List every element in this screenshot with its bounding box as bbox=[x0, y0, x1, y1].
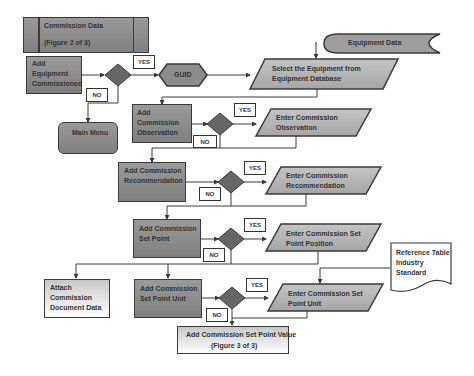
enter-set-point-unit-label: Enter Commission Set Point Unit bbox=[288, 289, 363, 309]
no-tag-2: NO bbox=[193, 135, 217, 148]
yes-tag-4: YES bbox=[244, 218, 266, 232]
equipment-data-label: Equipment Data bbox=[348, 38, 401, 48]
attach-document-label: Attach Commission Document Data bbox=[50, 283, 101, 313]
decision-diamond-5 bbox=[219, 287, 245, 309]
select-equipment-label: Select the Equipment from Equipment Data… bbox=[272, 64, 361, 84]
flowchart-canvas: Commission Data (Figure 2 of 3) Add Equi… bbox=[0, 0, 474, 376]
no-tag-5: NO bbox=[206, 308, 228, 322]
decision-diamond-4 bbox=[218, 228, 244, 250]
yes-tag-1: YES bbox=[133, 55, 155, 69]
header-subtitle: (Figure 2 of 3) bbox=[44, 38, 90, 48]
decision-diamond-1 bbox=[105, 64, 131, 86]
main-menu-button[interactable] bbox=[58, 122, 118, 154]
no-tag-4: NO bbox=[203, 248, 225, 262]
footer-title: Add Commission Set Point Value bbox=[186, 330, 296, 340]
yes-tag-3: YES bbox=[244, 161, 266, 175]
guid-label: GUID bbox=[174, 70, 192, 80]
add-set-point-label: Add Commission Set Point bbox=[139, 224, 197, 244]
reference-table-label: Reference Table Industry Standard bbox=[396, 248, 450, 278]
main-menu-label: Main Menu bbox=[72, 128, 108, 138]
add-equipment-label: Add Equipment Commissioned bbox=[32, 59, 82, 89]
add-observation-label: Add Commission Observation bbox=[137, 108, 179, 138]
decision-diamond-3 bbox=[218, 171, 244, 193]
add-recommendation-label: Add Commission Recommendation bbox=[124, 166, 183, 186]
no-tag-1: NO bbox=[86, 88, 108, 102]
no-tag-3: NO bbox=[199, 187, 221, 201]
header-title: Commission Data bbox=[44, 21, 103, 31]
enter-observation-label: Enter Commission Observation bbox=[276, 113, 338, 133]
yes-tag-2: YES bbox=[234, 103, 256, 117]
decision-diamond-2 bbox=[207, 113, 233, 135]
enter-recommendation-label: Enter Commission Recommendation bbox=[286, 171, 348, 191]
footer-subtitle: (Figure 3 of 3) bbox=[211, 341, 257, 351]
add-set-point-unit-label: Add Commission Set Point Unit bbox=[140, 284, 198, 304]
yes-tag-5: YES bbox=[246, 278, 268, 292]
enter-set-point-label: Enter Commission Set Point Position bbox=[286, 229, 361, 249]
